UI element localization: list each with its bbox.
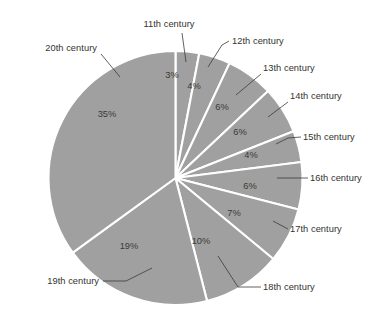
pct-16th-century: 6% bbox=[243, 181, 256, 191]
pie-chart-canvas: 11th century 3%12th century 4%13th centu… bbox=[0, 0, 390, 323]
callout-16th-century-label: 16th century bbox=[310, 173, 362, 183]
callout-14th-century-label: 14th century bbox=[290, 91, 342, 101]
callout-17th-century-label: 17th century bbox=[290, 224, 342, 234]
pct-13th-century: 6% bbox=[215, 102, 228, 112]
pct-19th-century: 19% bbox=[120, 241, 139, 251]
pct-12th-century: 4% bbox=[187, 81, 200, 91]
callout-12th-century-label: 12th century bbox=[232, 36, 284, 46]
pct-17th-century: 7% bbox=[227, 208, 240, 218]
callout-13th-century-label: 13th century bbox=[263, 63, 315, 73]
pct-14th-century: 6% bbox=[233, 127, 246, 137]
pct-15th-century: 4% bbox=[244, 150, 257, 160]
pct-18th-century: 10% bbox=[192, 236, 211, 246]
pct-20th-century: 35% bbox=[98, 109, 117, 119]
callout-15th-century-label: 15th century bbox=[303, 132, 355, 142]
callout-20th-century-label: 20th century bbox=[45, 43, 97, 53]
pie-slices-group: 11th century 3%12th century 4%13th centu… bbox=[49, 51, 303, 305]
callout-18th-century-label: 18th century bbox=[263, 282, 315, 292]
pct-11th-century: 3% bbox=[165, 70, 178, 80]
callout-11th-century-label: 11th century bbox=[143, 19, 194, 29]
callout-19th-century-label: 19th century bbox=[47, 276, 99, 286]
pie-chart-figure: 11th century 3%12th century 4%13th centu… bbox=[0, 0, 390, 323]
